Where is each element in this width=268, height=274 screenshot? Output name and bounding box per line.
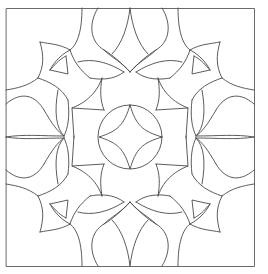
mandala-artwork (0, 0, 268, 274)
mandala-canvas (0, 0, 268, 274)
background (0, 0, 268, 274)
